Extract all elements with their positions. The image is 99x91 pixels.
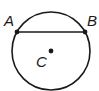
label-c: C bbox=[36, 53, 47, 70]
point-c-center bbox=[49, 49, 54, 54]
circle-diagram: A B C bbox=[0, 0, 99, 91]
point-a bbox=[15, 30, 20, 35]
label-a: A bbox=[3, 12, 14, 29]
point-b bbox=[83, 30, 88, 35]
label-b: B bbox=[87, 12, 97, 29]
